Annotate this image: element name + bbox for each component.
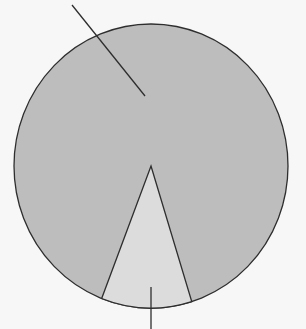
pie-chart	[0, 0, 306, 329]
pie-slices	[14, 24, 288, 308]
